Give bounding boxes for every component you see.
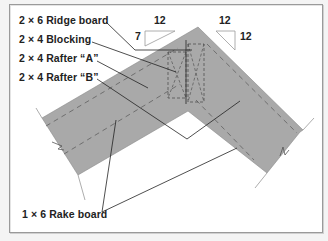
pitch-right-rise: 12 [240, 30, 252, 42]
label-rafter-b: 2 × 4 Rafter “B” [19, 71, 99, 83]
label-ridge-board: 2 × 6 Ridge board [19, 14, 109, 26]
pitch-left-run: 12 [154, 14, 166, 26]
pitch-right-run: 12 [219, 14, 231, 26]
roof-shape [42, 27, 303, 175]
pitch-left-rise: 7 [135, 30, 141, 42]
label-rake-board: 1 × 6 Rake board [22, 208, 107, 220]
label-blocking: 2 × 4 Blocking [19, 33, 91, 45]
label-rafter-a: 2 × 4 Rafter “A” [19, 52, 99, 64]
